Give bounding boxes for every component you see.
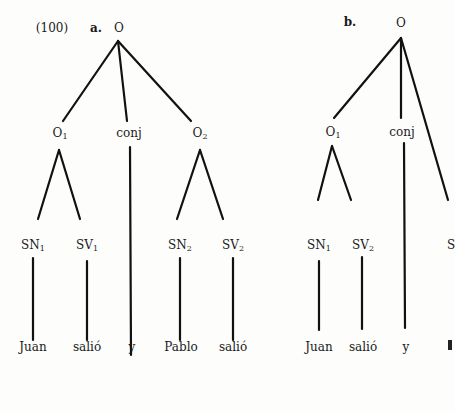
edge-a-O-O2 [118,41,191,121]
tree-a-node-O2: O2 [193,126,208,144]
tree-b-node-S-cropped: S [447,238,455,252]
edge-a-O-O1 [63,41,118,121]
edge-a-conj-y [130,147,131,355]
edge-b-O1-SV [332,146,351,200]
tree-a-node-SV1: SV1 [76,238,98,256]
tree-a-node-SN2: SN2 [168,238,192,256]
edge-b-O-O2 [401,38,448,200]
tree-a-word-salio-2: salió [219,340,247,354]
edge-b-O1-SN1 [318,146,332,200]
tree-a-label: a. [90,21,102,35]
edge-a-O-conj [118,41,127,121]
example-number: (100) [36,21,68,35]
tree-b-node-conj: conj [389,125,414,139]
tree-a-root: O [114,21,124,35]
tree-a-word-salio-1: salió [73,340,101,354]
tree-a-node-conj: conj [116,126,141,140]
tree-b-label: b. [344,15,357,29]
edge-a-O2-SV2 [200,150,223,219]
tree-b-word-y: y [403,340,410,354]
edge-a-O1-SN1 [38,150,59,219]
tree-a-word-juan: Juan [19,340,46,354]
tree-a-word-pablo: Pablo [164,340,197,354]
tree-a-word-y: y [129,340,136,354]
tree-b-word-salio: salió [349,340,377,354]
tree-a-node-SV2: SV2 [222,238,244,256]
tree-b-node-SN1: SN1 [307,238,331,256]
edge-a-O1-SV1 [59,150,80,219]
cropped-word-fragment [448,340,452,350]
tree-b-word-juan: Juan [305,340,332,354]
tree-a-node-O1: O1 [53,126,68,144]
tree-a-node-SN1: SN1 [21,238,45,256]
edge-b-O-O1 [334,38,401,118]
tree-b-node-SV2: SV2 [352,238,374,256]
tree-b-node-O1: O1 [326,125,341,143]
edge-b-conj-y [404,143,405,328]
tree-b-root: O [396,16,406,30]
edge-a-O2-SN2 [177,150,200,219]
